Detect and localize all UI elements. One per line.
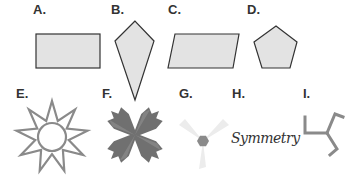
propeller-hexagon-icon	[179, 119, 229, 169]
three-arm-bent-icon	[305, 114, 343, 155]
kite-icon	[115, 21, 154, 100]
pentagon-icon	[254, 26, 297, 68]
nine-point-star-icon	[17, 101, 88, 171]
parallelogram-icon	[168, 34, 239, 68]
rectangle-icon	[36, 34, 100, 68]
figures-canvas	[0, 0, 351, 180]
symmetry-word: Symmetry	[231, 130, 300, 146]
four-arm-starburst-icon	[107, 107, 162, 162]
